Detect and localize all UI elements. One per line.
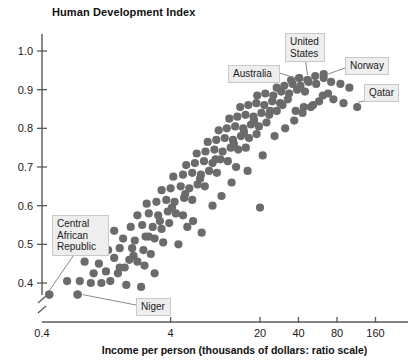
data-point-united-states [303, 76, 311, 84]
data-points [45, 72, 353, 299]
data-point [140, 262, 148, 270]
data-point [128, 244, 136, 252]
x-tick-label: 0.4 [34, 327, 49, 339]
data-point-central-african-republic [45, 291, 53, 299]
data-point [102, 267, 110, 275]
data-point [260, 101, 268, 109]
data-point [339, 99, 347, 107]
data-point [241, 111, 249, 119]
y-tick-label: 0.5 [18, 238, 33, 250]
data-point [324, 89, 332, 97]
data-point [181, 190, 189, 198]
x-tick-label: 80 [331, 327, 343, 339]
y-tick-label: 0.9 [18, 84, 33, 96]
data-point [196, 175, 204, 183]
data-point [280, 82, 288, 90]
callout-norway: Norway [345, 57, 389, 75]
data-point [167, 184, 175, 192]
data-point [345, 84, 353, 92]
y-tick-label: 0.6 [18, 200, 33, 212]
data-point [81, 258, 89, 266]
x-tick-label: 160 [366, 327, 384, 339]
data-point [145, 209, 153, 217]
x-tick-label: 4 [168, 327, 174, 339]
callout-qatar: Qatar [364, 84, 399, 102]
data-point [221, 134, 229, 142]
y-tick-label: 1.0 [18, 45, 33, 57]
data-point [159, 238, 167, 246]
data-point [273, 84, 281, 92]
data-point [168, 204, 176, 212]
data-point [158, 186, 166, 194]
data-point [230, 140, 238, 148]
data-point [90, 269, 98, 277]
data-point [143, 200, 151, 208]
data-point [244, 167, 252, 175]
x-axis-title: Income per person (thousands of dollars:… [0, 344, 413, 356]
data-point [232, 163, 240, 171]
data-point [145, 233, 153, 241]
data-point [201, 182, 209, 190]
data-point [285, 89, 293, 97]
data-point [188, 169, 196, 177]
data-point [205, 167, 213, 175]
data-point [116, 263, 124, 271]
callout-leader-line [280, 73, 295, 78]
data-point [156, 217, 164, 225]
data-point [182, 161, 190, 169]
data-point [259, 151, 267, 159]
data-point [290, 117, 298, 125]
data-point [208, 202, 216, 210]
scatter-chart: Human Development Index 0.40.50.60.70.80… [0, 0, 413, 364]
data-point [213, 169, 221, 177]
callout-niger: Niger [136, 298, 171, 316]
data-point [147, 250, 155, 258]
data-point [174, 240, 182, 248]
data-point [151, 269, 159, 277]
data-point [139, 246, 147, 254]
data-point [256, 204, 264, 212]
data-point [242, 144, 250, 152]
data-point [225, 115, 233, 123]
data-point [131, 236, 139, 244]
data-point [191, 159, 199, 167]
data-point [296, 82, 304, 90]
data-point [311, 72, 319, 80]
data-point [110, 254, 118, 262]
data-point [250, 117, 258, 125]
data-point [224, 157, 232, 165]
data-point [252, 99, 260, 107]
data-point [189, 217, 197, 225]
data-point [236, 103, 244, 111]
y-tick-label: 0.4 [18, 277, 33, 289]
data-point [177, 182, 185, 190]
data-point [179, 211, 187, 219]
data-point [204, 138, 212, 146]
data-point [138, 221, 146, 229]
data-point [257, 109, 265, 117]
data-point [327, 78, 335, 86]
data-point [233, 113, 241, 121]
callout-australia: Australia [228, 65, 280, 83]
data-point [116, 244, 124, 252]
data-point [219, 147, 227, 155]
data-point [97, 279, 105, 287]
data-point [137, 283, 145, 291]
data-point [193, 149, 201, 157]
data-point [307, 103, 315, 111]
data-point [298, 109, 306, 117]
data-point [158, 225, 166, 233]
data-point [162, 196, 170, 204]
data-point [133, 211, 141, 219]
x-tick-label: 40 [292, 327, 304, 339]
data-point [200, 157, 208, 165]
data-point [110, 227, 118, 235]
data-point [315, 97, 323, 105]
data-point [188, 196, 196, 204]
data-point [179, 171, 187, 179]
data-point [95, 260, 103, 268]
data-point [269, 91, 277, 99]
data-point [198, 229, 206, 237]
data-point [169, 173, 177, 181]
data-point [119, 234, 127, 242]
